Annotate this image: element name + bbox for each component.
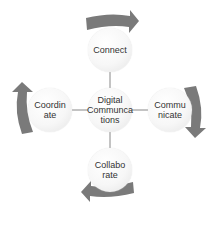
node-collaborate-label: Collabo rate xyxy=(95,160,126,180)
node-connect-label: Connect xyxy=(93,45,127,55)
node-center: Digital Communca tions xyxy=(88,88,132,132)
node-communicate: Commu nicate xyxy=(148,88,192,132)
node-communicate-label: Commu nicate xyxy=(154,100,186,120)
node-coordinate: Coordin ate xyxy=(28,88,72,132)
node-connect: Connect xyxy=(88,28,132,72)
center-label: Digital Communca tions xyxy=(87,95,133,125)
node-collaborate: Collabo rate xyxy=(88,148,132,192)
node-coordinate-label: Coordin ate xyxy=(34,100,66,120)
